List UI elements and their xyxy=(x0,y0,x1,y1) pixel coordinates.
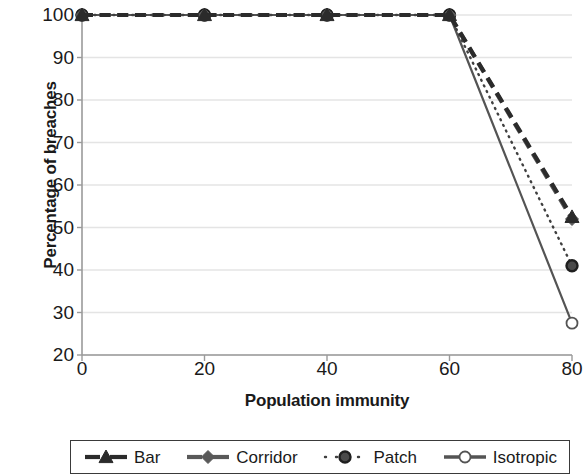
circle-marker-dotted-line-icon xyxy=(322,449,368,465)
legend-items: BarCorridorPatchIsotropic xyxy=(71,441,569,473)
legend-item-patch[interactable]: Patch xyxy=(322,449,416,466)
legend-label: Corridor xyxy=(236,449,297,466)
legend-item-isotropic[interactable]: Isotropic xyxy=(442,449,557,466)
legend-item-bar[interactable]: Bar xyxy=(83,449,160,466)
x-axis-title: Population immunity xyxy=(82,391,572,411)
legend-label: Patch xyxy=(373,449,416,466)
triangle-marker-dashed-line-icon xyxy=(83,449,129,465)
data-point-marker xyxy=(340,452,351,463)
legend-label: Bar xyxy=(134,449,160,466)
chart-legend: BarCorridorPatchIsotropic xyxy=(70,440,570,474)
legend-label: Isotropic xyxy=(493,449,557,466)
x-tick-label: 60 xyxy=(420,358,480,380)
x-axis-tick-labels: 020406080 xyxy=(0,0,583,400)
x-tick-label: 0 xyxy=(52,358,112,380)
x-tick-label: 40 xyxy=(297,358,357,380)
legend-item-corridor[interactable]: Corridor xyxy=(185,449,297,466)
data-point-marker xyxy=(459,452,470,463)
x-tick-label: 20 xyxy=(175,358,235,380)
x-tick-label: 80 xyxy=(542,358,583,380)
chart-figure: Percentage of breaches 20304050607080901… xyxy=(0,0,583,476)
data-point-marker xyxy=(202,451,215,464)
open-circle-marker-solid-line-icon xyxy=(442,449,488,465)
diamond-marker-dashed-line-icon xyxy=(185,449,231,465)
